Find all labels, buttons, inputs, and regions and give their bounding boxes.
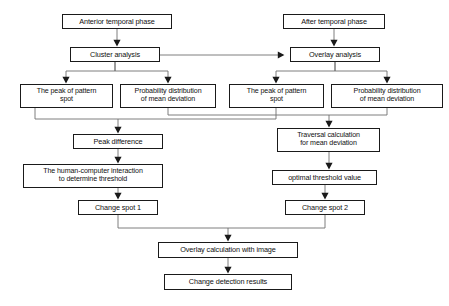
node-label-after_phase: After temporal phase (285, 18, 383, 26)
arrowhead-overlay-to-prob-right (383, 77, 390, 84)
node-label-prob_right: Probability distribution of mean deviati… (333, 88, 441, 103)
node-label-overlay_analysis: Overlay analysis (292, 51, 378, 59)
node-label-prob_left: Probability distribution of mean deviati… (122, 88, 214, 103)
edge-cluster-to-prob-left (115, 62, 168, 82)
arrowhead-difference-to-human (114, 157, 121, 164)
node-overlay_analysis: Overlay analysis (290, 47, 380, 62)
node-overlay_calc: Overlay calculation with image (158, 242, 298, 258)
edge-spot1-to-overlaycalc (118, 215, 228, 240)
node-prob_left: Probability distribution of mean deviati… (120, 84, 216, 108)
node-label-peak_right: The peak of pattern spot (231, 88, 322, 103)
node-label-change_spot_1: Change spot 1 (80, 204, 156, 212)
arrowhead-human-to-spot1 (114, 193, 121, 200)
arrowhead-after-to-overlay (330, 40, 337, 47)
node-label-peak_difference: Peak difference (75, 138, 161, 146)
arrowhead-cluster-to-prob-left (164, 77, 171, 84)
node-traversal_calc: Traversal calculation for mean deviation (277, 128, 380, 152)
edge-spot2-to-overlaycalc (228, 215, 325, 228)
node-label-traversal_calc: Traversal calculation for mean deviation (279, 132, 378, 147)
node-label-human_threshold: The human-computer interaction to determ… (25, 168, 161, 183)
node-label-change_results: Change detection results (166, 278, 290, 286)
node-peak_right: The peak of pattern spot (229, 84, 324, 108)
edge-probleft-to-traversal (168, 108, 329, 126)
node-prob_right: Probability distribution of mean deviati… (331, 84, 443, 108)
node-label-cluster_analysis: Cluster analysis (72, 51, 158, 59)
arrowhead-anterior-to-cluster (113, 40, 120, 47)
node-label-anterior_phase: Anterior temporal phase (64, 18, 170, 26)
node-cluster_analysis: Cluster analysis (70, 47, 160, 62)
node-change_results: Change detection results (164, 274, 292, 290)
arrowhead-peakleft-to-difference (114, 127, 121, 134)
node-after_phase: After temporal phase (283, 14, 385, 29)
arrowhead-traversal-to-optimal (325, 163, 332, 170)
node-peak_difference: Peak difference (73, 134, 163, 149)
node-label-optimal_value: optimal threshold value (274, 174, 375, 182)
arrowhead-cluster-to-overlay (278, 51, 285, 58)
flowchart-canvas: Anterior temporal phaseAfter temporal ph… (0, 0, 449, 306)
node-peak_left: The peak of pattern spot (20, 84, 113, 108)
node-human_threshold: The human-computer interaction to determ… (23, 164, 163, 188)
node-label-overlay_calc: Overlay calculation with image (160, 246, 296, 254)
arrowhead-overlaycalc-to-results (224, 267, 231, 274)
node-change_spot_2: Change spot 2 (285, 200, 365, 215)
edge-peakright-to-difference (118, 108, 276, 119)
node-optimal_value: optimal threshold value (272, 170, 377, 185)
arrowhead-cluster-to-peak-left (62, 77, 69, 84)
edge-cluster-to-peak-left (66, 62, 115, 82)
arrowhead-overlay-to-peak-right (272, 77, 279, 84)
arrowhead-probleft-to-traversal (325, 121, 332, 128)
edge-probright-to-traversal (329, 108, 387, 115)
node-change_spot_1: Change spot 1 (78, 200, 158, 215)
arrowhead-spot1-to-overlaycalc (224, 235, 231, 242)
arrowhead-optimal-to-spot2 (321, 193, 328, 200)
edge-overlay-to-peak-right (276, 62, 335, 82)
edge-overlay-to-prob-right (335, 62, 387, 82)
node-label-peak_left: The peak of pattern spot (22, 88, 111, 103)
flowchart-edges (0, 0, 449, 306)
node-label-change_spot_2: Change spot 2 (287, 204, 363, 212)
edge-peakleft-to-difference (35, 108, 118, 132)
node-anterior_phase: Anterior temporal phase (62, 14, 172, 29)
